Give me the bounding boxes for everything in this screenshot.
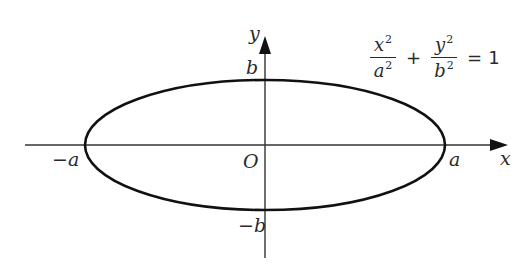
fraction-bar bbox=[431, 57, 457, 58]
equals-sign: = bbox=[467, 47, 482, 68]
plus-sign: + bbox=[406, 47, 421, 68]
origin-label: O bbox=[243, 152, 259, 171]
exponent: 2 bbox=[385, 59, 392, 72]
top-vertex-label: b bbox=[246, 58, 258, 77]
fraction-x-over-a: x2 a2 bbox=[370, 34, 396, 81]
fraction-bar bbox=[370, 57, 396, 58]
x-axis-label: x bbox=[500, 149, 511, 168]
exponent: 2 bbox=[447, 59, 454, 72]
denominator-b: b bbox=[434, 60, 446, 81]
equation-rhs: 1 bbox=[488, 47, 499, 68]
numerator-y: y bbox=[435, 34, 445, 55]
fraction-y-over-b: y2 b2 bbox=[431, 34, 457, 81]
exponent: 2 bbox=[385, 33, 392, 46]
ellipse-equation: x2 a2 + y2 b2 = 1 bbox=[366, 34, 506, 81]
right-vertex-label: a bbox=[449, 150, 460, 169]
y-axis-arrow-icon bbox=[259, 36, 271, 54]
bottom-vertex-label: −b bbox=[238, 216, 266, 235]
exponent: 2 bbox=[446, 33, 453, 46]
left-vertex-label: −a bbox=[52, 150, 79, 169]
y-axis-label: y bbox=[249, 24, 260, 43]
denominator-a: a bbox=[374, 60, 385, 81]
numerator-x: x bbox=[374, 34, 384, 55]
